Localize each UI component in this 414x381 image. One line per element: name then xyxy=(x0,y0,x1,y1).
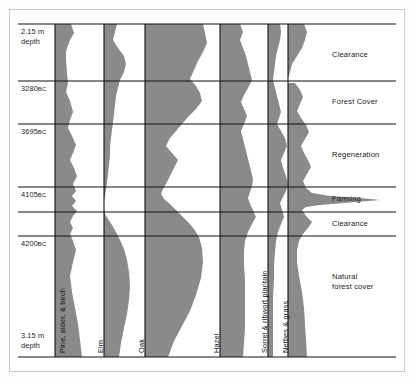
taxon-label-nettles-grass: Nettles & grass xyxy=(281,301,290,353)
date-value-3695: 3695 xyxy=(21,127,38,136)
taxon-label-elm: Elm xyxy=(96,340,105,353)
taxon-label-hazel: Hazel xyxy=(212,333,221,353)
depth-label-top-line2: depth xyxy=(21,37,40,46)
date-label-3280: 3280BC xyxy=(21,84,47,94)
phase-label-regeneration: Regeneration xyxy=(332,150,379,160)
taxon-label-pine-alder-birch: Pine, alder, & birch xyxy=(58,288,67,353)
depth-label-bottom-line2: depth xyxy=(21,341,40,350)
curve-hazel xyxy=(220,24,256,357)
date-era-4200: BC xyxy=(38,241,47,247)
date-value-3280: 3280 xyxy=(21,84,38,93)
phase-label-clearance-upper: Clearance xyxy=(332,50,368,60)
taxon-label-oak: Oak xyxy=(137,339,146,353)
phase-label-natural-forest-cover: Natural forest cover xyxy=(332,272,373,292)
date-era-3280: BC xyxy=(38,86,47,92)
date-era-3695: BC xyxy=(38,129,47,135)
phase-label-forest-cover: Forest Cover xyxy=(332,97,378,107)
date-value-4105: 4105 xyxy=(21,190,38,199)
curve-oak xyxy=(145,24,207,357)
date-label-3695: 3695BC xyxy=(21,127,47,137)
phase-label-farming: Farming xyxy=(332,194,361,204)
date-label-4105: 4105BC xyxy=(21,190,47,200)
pollen-diagram-figure: 2.15 m depth 3280BC 3695BC 4105BC 4200BC… xyxy=(0,0,414,381)
depth-label-bottom-line1: 3.15 m xyxy=(21,331,44,340)
date-label-4200: 4200BC xyxy=(21,239,47,249)
curve-nettles-grass xyxy=(288,24,380,357)
date-era-4105: BC xyxy=(38,192,47,198)
date-value-4200: 4200 xyxy=(21,239,38,248)
depth-label-top-line1: 2.15 m xyxy=(21,27,44,36)
phase-label-clearance-lower: Clearance xyxy=(332,219,368,229)
taxon-label-sorrel-ribwort-plantain: Sorrel & ribwort plantain xyxy=(260,270,269,353)
curve-elm xyxy=(104,24,130,357)
